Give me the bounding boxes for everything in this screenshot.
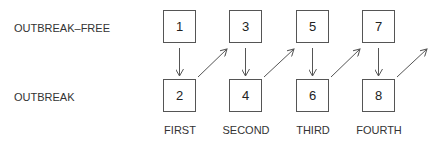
arrow-6-to-7 xyxy=(331,49,360,77)
arrow-4-to-5 xyxy=(264,49,294,77)
arrow-8-to-next xyxy=(397,49,427,77)
arrows-layer xyxy=(0,0,437,146)
arrow-2-to-3 xyxy=(198,49,227,77)
